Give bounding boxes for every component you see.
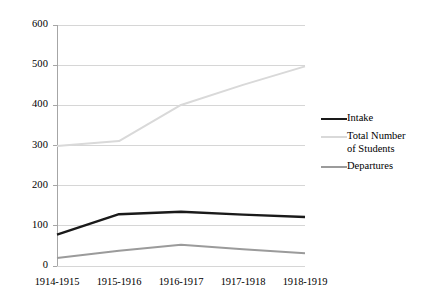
legend-color-swatch bbox=[321, 112, 347, 125]
x-axis-tick-label: 1914-1915 bbox=[35, 276, 80, 287]
legend-label: Departures bbox=[347, 160, 393, 173]
x-axis-tick-label: 1916-1917 bbox=[159, 276, 204, 287]
legend-color-swatch bbox=[321, 160, 347, 173]
legend-item: Departures bbox=[321, 160, 427, 173]
x-axis-tick-label: 1915-1916 bbox=[97, 276, 142, 287]
x-axis-tick-label: 1917-1918 bbox=[221, 276, 266, 287]
legend-color-swatch bbox=[321, 130, 347, 143]
x-axis-tick-label: 1918-1919 bbox=[283, 276, 328, 287]
chart-legend: IntakeTotal Number of StudentsDepartures bbox=[321, 112, 427, 178]
legend-item: Intake bbox=[321, 112, 427, 125]
legend-item: Total Number of Students bbox=[321, 130, 427, 155]
line-chart: 0100200300400500600 1914-19151915-191619… bbox=[0, 0, 427, 301]
legend-label: Intake bbox=[347, 112, 373, 125]
legend-label: Total Number of Students bbox=[347, 130, 405, 155]
